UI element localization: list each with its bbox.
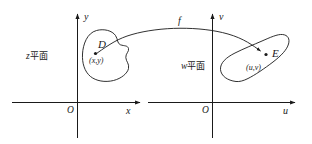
left-origin-label: O (67, 106, 74, 116)
point-uv-label: (u,v) (246, 64, 261, 72)
z-plane-label-suffix: 平面 (30, 51, 48, 61)
mapping-diagram: z平面 y x O D (x,y) w平面 v u O E (u,v) f (0, 0, 312, 144)
mapping-arrow (97, 28, 261, 53)
w-plane-label-suffix: 平面 (187, 61, 205, 71)
region-d-label: D (98, 39, 106, 50)
y-axis-label: y (84, 12, 88, 22)
right-origin-label: O (202, 106, 209, 116)
left-plane-axes (12, 14, 140, 138)
z-plane-label: z平面 (26, 52, 48, 62)
w-plane-label: w平面 (181, 62, 205, 72)
mapping-function-label: f (178, 16, 181, 26)
v-axis-label: v (219, 12, 223, 22)
point-uv-marker (264, 53, 267, 56)
u-axis-label: u (283, 106, 288, 116)
diagram-canvas (0, 0, 312, 144)
x-axis-label: x (126, 106, 130, 116)
region-e-label: E (272, 48, 279, 59)
point-xy-label: (x,y) (89, 57, 103, 65)
